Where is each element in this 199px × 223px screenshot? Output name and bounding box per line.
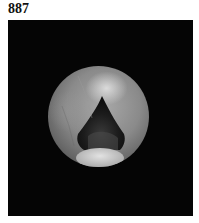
image-frame: [8, 20, 193, 216]
figure-label: 887: [8, 1, 29, 16]
endoscopic-view: [48, 66, 149, 167]
anatomical-opening: [48, 66, 149, 167]
